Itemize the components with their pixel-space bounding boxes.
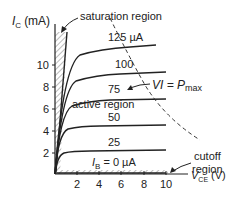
x-tick-label: 6	[118, 178, 124, 190]
curve-label-125: 125 µA	[108, 31, 144, 43]
y-tick-label: 4	[43, 125, 49, 137]
cutoff-region-label-2: region	[192, 163, 223, 175]
y-tick-label: 8	[43, 81, 49, 93]
x-tick-label: 2	[74, 178, 80, 190]
curve-label-100: 100	[115, 58, 133, 70]
y-tick-label: 6	[43, 103, 49, 115]
y-tick-label: 2	[43, 147, 49, 159]
x-tick-label: 10	[160, 178, 172, 190]
cutoff-arrow	[173, 163, 191, 171]
curve-label-25: 25	[108, 136, 120, 148]
saturation-arrowhead-icon	[61, 26, 67, 33]
x-tick-label: 8	[141, 178, 147, 190]
y-axis-label: IC(mA)	[12, 14, 50, 30]
curve-label-ib0: IB = 0 µA	[92, 156, 136, 171]
active-region-label: active region	[72, 98, 134, 110]
curve-label-75: 75	[108, 83, 120, 95]
transistor-characteristic-chart: IC(mA) VCE(V) 2 4 6 8 10 2 4 6 8 10 satu…	[0, 0, 236, 204]
saturation-region-label: saturation region	[80, 10, 162, 22]
cutoff-region-label-1: cutoff	[194, 150, 222, 162]
curve-label-50: 50	[108, 111, 120, 123]
pmax-label: VI = Pmax	[152, 78, 203, 93]
y-tick-label: 10	[37, 59, 49, 71]
x-tick-label: 4	[96, 178, 102, 190]
